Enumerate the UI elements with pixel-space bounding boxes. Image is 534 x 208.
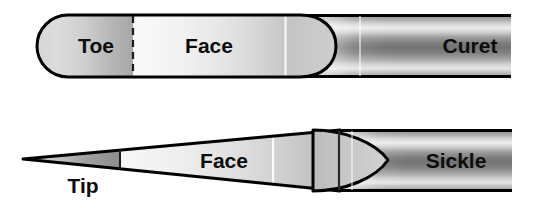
label-tip: Tip xyxy=(67,174,98,197)
label-toe: Toe xyxy=(78,34,114,57)
label-curet: Curet xyxy=(443,34,498,57)
instrument-diagram-svg: Toe Face Curet xyxy=(0,0,534,208)
label-sickle: Sickle xyxy=(426,149,487,172)
label-face-sickle: Face xyxy=(200,149,248,172)
curet-instrument: Toe Face Curet xyxy=(37,15,511,77)
label-face-curet: Face xyxy=(185,34,233,57)
sickle-instrument: Tip Face Sickle xyxy=(23,125,512,197)
instrument-diagram-figure: Toe Face Curet xyxy=(0,0,534,208)
